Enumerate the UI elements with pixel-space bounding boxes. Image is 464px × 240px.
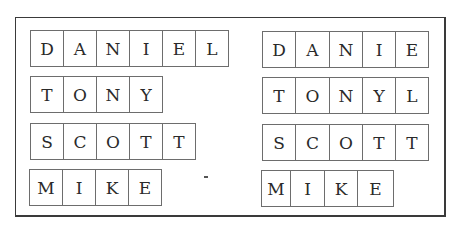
letter-cell: O xyxy=(295,77,330,114)
letter-cell: E xyxy=(357,170,394,207)
left-row-tony: T O N Y xyxy=(30,76,163,113)
letter-cell: K xyxy=(324,170,358,207)
letter-cell: O xyxy=(63,76,97,113)
letter-cell: D xyxy=(262,31,296,68)
letter-cell: E xyxy=(395,31,429,68)
letter-cell: K xyxy=(95,169,129,206)
right-row-mike: M I K E xyxy=(261,170,394,207)
right-row-scott: S C O T T xyxy=(262,124,429,161)
letter-cell: T xyxy=(362,124,396,161)
letter-cell: O xyxy=(329,124,363,161)
letter-cell: T xyxy=(30,76,64,113)
letter-cell: M xyxy=(29,169,63,206)
left-row-daniel: D A N I E L xyxy=(30,30,229,67)
letter-cell: Y xyxy=(362,77,396,114)
letter-cell: L xyxy=(395,77,429,114)
stray-mark xyxy=(204,176,208,178)
letter-cell: A xyxy=(63,30,97,67)
letter-cell: E xyxy=(128,169,162,206)
letter-cell: T xyxy=(395,124,429,161)
letter-cell: T xyxy=(262,77,296,114)
letter-cell: Y xyxy=(129,76,163,113)
letter-cell: D xyxy=(30,30,64,67)
letter-cell: C xyxy=(295,124,330,161)
letter-cell: I xyxy=(290,170,325,207)
left-row-mike: M I K E xyxy=(29,169,162,206)
letter-cell: M xyxy=(261,170,291,207)
letter-cell: N xyxy=(329,77,363,114)
letter-cell: N xyxy=(96,30,130,67)
letter-cell: N xyxy=(329,31,363,68)
letter-cell: O xyxy=(96,123,130,160)
letter-cell: E xyxy=(162,30,196,67)
letter-cell: L xyxy=(195,30,229,67)
letter-cell: I xyxy=(362,31,396,68)
letter-cell: I xyxy=(129,30,163,67)
letter-cell: S xyxy=(262,124,296,161)
letter-cell: S xyxy=(30,123,64,160)
letter-cell: N xyxy=(96,76,130,113)
left-row-scott: S C O T T xyxy=(30,123,196,160)
right-row-danie: D A N I E xyxy=(262,31,429,68)
letter-cell: C xyxy=(63,123,97,160)
letter-cell: T xyxy=(129,123,163,160)
letter-cell: T xyxy=(162,123,196,160)
letter-cell: I xyxy=(62,169,96,206)
letter-cell: A xyxy=(295,31,330,68)
right-row-tonyl: T O N Y L xyxy=(262,77,429,114)
